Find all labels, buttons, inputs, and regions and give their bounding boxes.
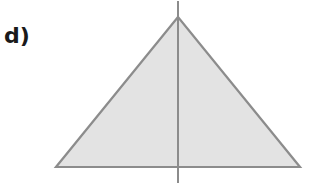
triangle-diagram — [0, 0, 310, 195]
